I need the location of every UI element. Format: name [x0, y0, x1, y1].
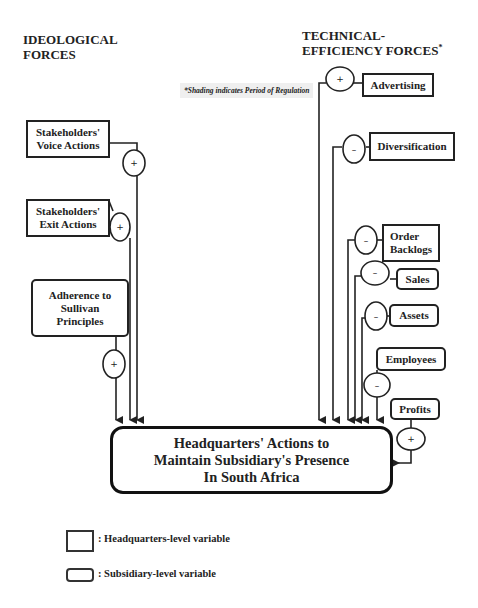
order-backlogs-box: Order Backlogs	[382, 224, 440, 262]
legend-subsidiary-swatch	[66, 568, 94, 582]
box-label-line: Adherence to	[49, 289, 111, 302]
box-label-line: Backlogs	[390, 243, 432, 256]
sullivan-sign: +	[110, 359, 118, 369]
backlogs-sign: –	[364, 236, 369, 246]
voice-sign: +	[130, 158, 138, 168]
box-label: Profits	[399, 403, 431, 416]
heading-line: TECHNICAL-	[302, 28, 442, 43]
heading-line: EFFICIENCY FORCES	[302, 43, 438, 58]
ideological-forces-heading: IDEOLOGICAL FORCES	[23, 32, 118, 62]
box-label-line: Voice Actions	[36, 139, 100, 152]
outcome-label-line: In South Africa	[154, 469, 350, 486]
box-label: Sales	[406, 273, 430, 286]
outcome-label-line: Headquarters' Actions to	[154, 435, 350, 452]
assets-sign: –	[374, 312, 379, 322]
exit-sign: +	[116, 222, 124, 232]
sales-sign: –	[373, 268, 378, 278]
assets-box: Assets	[389, 304, 439, 327]
diversification-box: Diversification	[369, 132, 455, 161]
diversification-sign: –	[352, 145, 357, 155]
employees-sign: –	[375, 381, 380, 391]
heading-line: FORCES	[23, 47, 118, 62]
box-label-line: Stakeholders'	[36, 205, 100, 218]
advertising-sign: +	[336, 74, 344, 84]
advertising-box: Advertising	[362, 73, 434, 97]
headquarters-actions-box: Headquarters' Actions to Maintain Subsid…	[110, 426, 393, 494]
technical-efficiency-forces-heading: TECHNICAL- EFFICIENCY FORCES*	[302, 28, 442, 58]
box-label-line: Sullivan	[49, 302, 111, 315]
legend-headquarters-swatch	[66, 530, 94, 552]
shading-note: *Shading indicates Period of Regulation	[180, 83, 313, 98]
adherence-sullivan-principles-box: Adherence to Sullivan Principles	[31, 279, 129, 337]
profits-sign: +	[407, 434, 415, 444]
box-label-line: Order	[390, 230, 432, 243]
heading-line: IDEOLOGICAL	[23, 32, 118, 47]
stakeholders-voice-actions-box: Stakeholders' Voice Actions	[26, 120, 110, 158]
outcome-label-line: Maintain Subsidiary's Presence	[154, 452, 350, 469]
box-label: Diversification	[377, 140, 446, 153]
legend-subsidiary-label: : Subsidiary-level variable	[98, 568, 216, 579]
footnote-marker: *	[438, 43, 442, 52]
box-label: Advertising	[371, 79, 426, 92]
employees-box: Employees	[376, 347, 446, 371]
box-label-line: Stakeholders'	[36, 126, 100, 139]
profits-box: Profits	[390, 398, 440, 420]
box-label-line: Exit Actions	[36, 218, 100, 231]
legend-headquarters-label: : Headquarters-level variable	[98, 533, 230, 544]
box-label: Assets	[399, 309, 428, 322]
box-label-line: Principles	[49, 315, 111, 328]
stakeholders-exit-actions-box: Stakeholders' Exit Actions	[26, 199, 110, 237]
sales-box: Sales	[396, 268, 439, 290]
box-label: Employees	[386, 353, 437, 366]
